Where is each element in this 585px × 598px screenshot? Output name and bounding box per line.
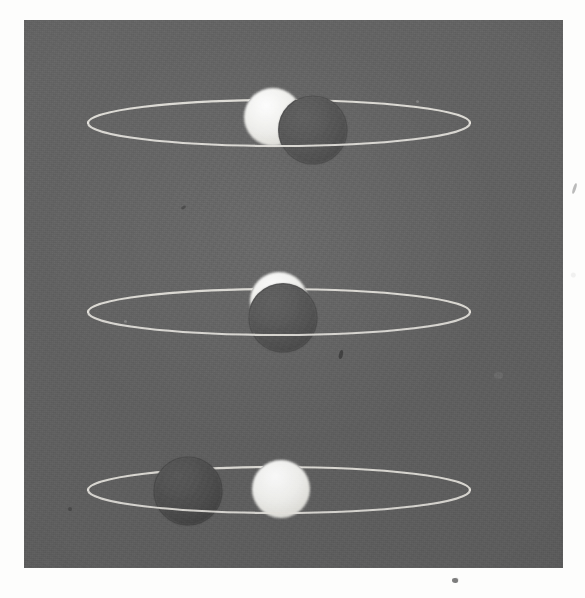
margin-speck <box>452 578 458 583</box>
shaded-sphere-lower <box>154 457 222 525</box>
shaded-sphere-upper <box>279 96 347 164</box>
margin-speck <box>571 183 577 194</box>
photographic-print <box>24 20 563 568</box>
photograph-page <box>0 0 585 598</box>
orbit-configuration-upper <box>24 20 563 220</box>
orbit-stage-lower <box>24 387 563 568</box>
orbit-configuration-lower <box>24 387 563 568</box>
shaded-sphere-middle <box>249 284 317 352</box>
lit-sphere-lower <box>252 460 310 518</box>
orbit-stage-middle <box>24 209 563 409</box>
orbit-configuration-middle <box>24 209 563 409</box>
orbit-stage-upper <box>24 20 563 220</box>
